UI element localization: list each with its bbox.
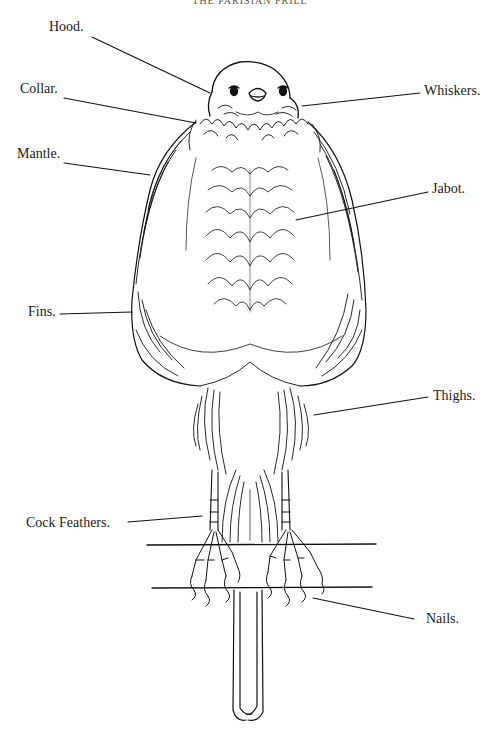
label-whiskers: Whiskers.: [424, 84, 480, 98]
tail: [233, 590, 263, 720]
label-thighs: Thighs.: [433, 389, 475, 403]
jabot: [206, 166, 294, 312]
leader-cock-feathers: [128, 516, 202, 522]
label-mantle: Mantle.: [17, 147, 60, 161]
eye-left: [231, 87, 238, 96]
leader-collar: [64, 98, 196, 123]
label-nails: Nails.: [426, 612, 459, 626]
canary-illustration: [0, 0, 500, 735]
eye-right: [280, 87, 287, 96]
label-collar: Collar.: [20, 82, 58, 96]
thighs: [193, 388, 308, 474]
head: [208, 62, 298, 118]
leader-hood: [92, 37, 210, 93]
cock-feathers: [222, 470, 278, 542]
label-cock-feathers: Cock Feathers.: [26, 516, 110, 530]
beak: [249, 89, 266, 102]
leader-thighs: [314, 397, 428, 415]
body: [132, 122, 366, 386]
leader-whiskers: [302, 93, 420, 106]
leader-fins: [60, 312, 132, 314]
leader-mantle: [64, 163, 150, 175]
perch: [147, 544, 376, 588]
label-fins: Fins.: [28, 305, 56, 319]
collar-ruffle: [189, 119, 320, 152]
leader-jabot: [296, 192, 428, 220]
label-jabot: Jabot.: [432, 182, 465, 196]
label-hood: Hood.: [49, 20, 84, 34]
leader-nails: [313, 598, 414, 619]
